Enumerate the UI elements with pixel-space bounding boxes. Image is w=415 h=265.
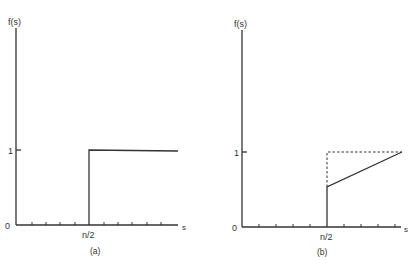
panel-a bbox=[16, 28, 178, 225]
panel-caption: (b) bbox=[317, 247, 328, 257]
panel-b bbox=[242, 30, 402, 227]
ramp-curve bbox=[327, 152, 402, 227]
diagram-canvas: f(s) s 0 1 n/2 (a) f(s) s 0 1 n/2 (b) bbox=[0, 0, 415, 265]
step-curve bbox=[89, 150, 178, 225]
y-tick-label-0: 0 bbox=[232, 223, 237, 233]
y-tick-label-1: 1 bbox=[8, 146, 13, 156]
y-axis-label: f(s) bbox=[8, 17, 21, 27]
panel-a-labels: f(s) s 0 1 n/2 (a) bbox=[5, 17, 186, 256]
x-tick-label-n-half: n/2 bbox=[320, 232, 333, 242]
y-tick-label-1: 1 bbox=[234, 148, 239, 158]
y-tick-label-0: 0 bbox=[5, 221, 10, 231]
x-axis-label: s bbox=[182, 223, 186, 232]
x-tick-label-n-half: n/2 bbox=[82, 230, 95, 240]
x-axis-label: s bbox=[404, 225, 408, 234]
panel-caption: (a) bbox=[90, 246, 101, 256]
y-axis-label: f(s) bbox=[234, 19, 247, 29]
panel-b-labels: f(s) s 0 1 n/2 (b) bbox=[232, 19, 408, 257]
